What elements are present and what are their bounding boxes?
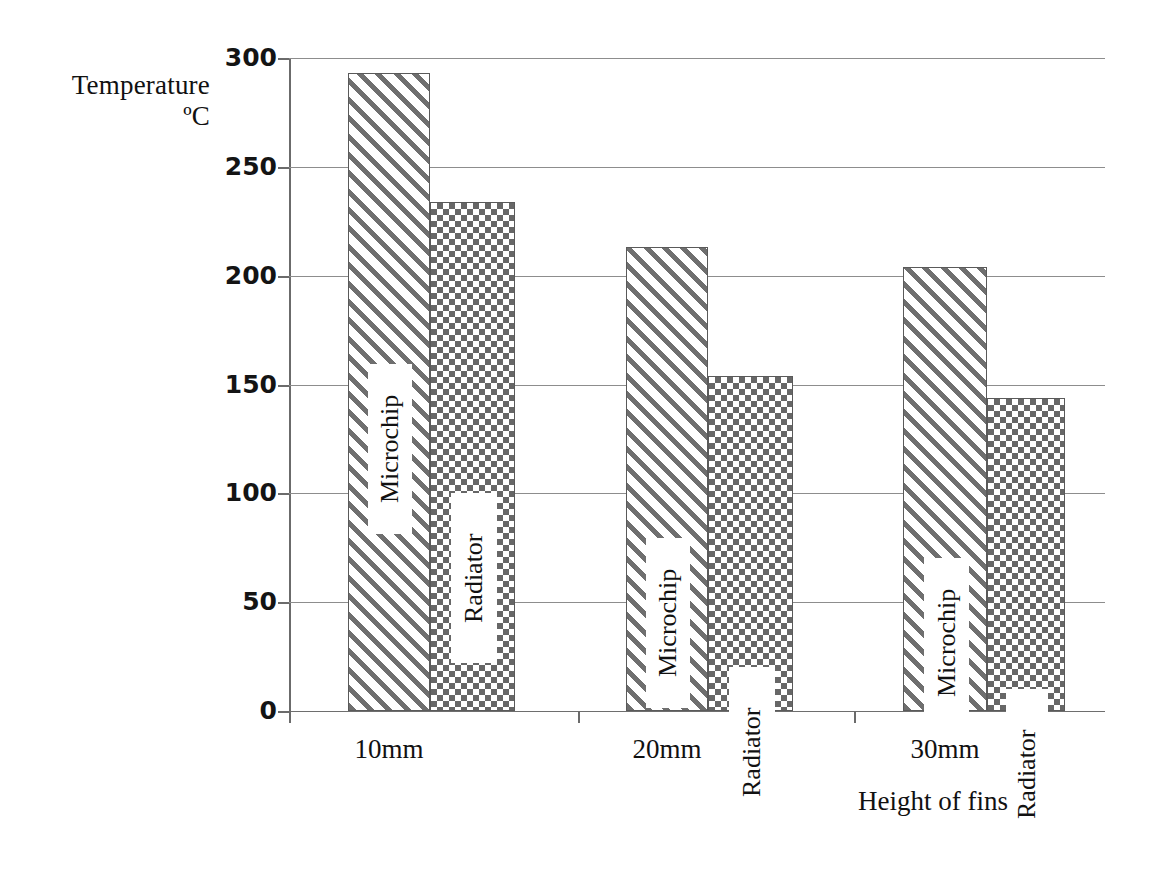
y-tick-mark: [278, 276, 289, 278]
y-tick-mark: [278, 167, 289, 169]
y-tick-label: 200: [203, 263, 277, 288]
bar-series-label: Radiator: [1006, 689, 1048, 859]
y-tick-label: 250: [203, 154, 277, 179]
y-axis-title: Temperature ºC: [40, 70, 210, 132]
y-tick-label: 150: [203, 372, 277, 397]
y-tick-label: 100: [203, 480, 277, 505]
x-tick-mark: [854, 711, 856, 723]
y-tick-mark: [278, 602, 289, 604]
x-category-label-30mm: 30mm: [845, 734, 1045, 765]
bar-radiator-20mm: Radiator: [708, 376, 793, 711]
gridline: [289, 58, 1105, 59]
y-tick-mark: [278, 385, 289, 387]
bar-chart: Temperature ºC 300250200150100500 Microc…: [0, 0, 1162, 869]
y-axis-title-line1: Temperature: [40, 70, 210, 101]
y-tick-mark: [278, 493, 289, 495]
y-tick-label: 300: [203, 45, 277, 70]
bar-series-label: Microchip: [924, 558, 969, 728]
bar-radiator-10mm: Radiator: [430, 202, 515, 711]
plot-area: 300250200150100500 MicrochipRadiatorMicr…: [289, 58, 1105, 711]
x-category-label-20mm: 20mm: [567, 734, 767, 765]
y-axis-title-line2: ºC: [40, 101, 210, 132]
bar-series-label: Radiator: [451, 493, 497, 663]
x-category-label-10mm: 10mm: [289, 734, 489, 765]
x-tick-mark: [578, 711, 580, 723]
bar-series-label: Microchip: [646, 538, 690, 708]
y-tick-label: 0: [203, 698, 277, 723]
bar-microchip-10mm: Microchip: [348, 73, 430, 711]
y-tick-label: 50: [203, 589, 277, 614]
bar-microchip-30mm: Microchip: [903, 267, 987, 711]
x-axis-title: Height of fins: [858, 786, 1008, 817]
y-tick-mark: [278, 711, 289, 713]
bar-radiator-30mm: Radiator: [987, 398, 1065, 711]
gridline: [289, 711, 1105, 712]
bar-series-label: Microchip: [368, 364, 412, 534]
y-tick-mark: [278, 58, 289, 60]
x-tick-mark: [289, 711, 291, 723]
bar-microchip-20mm: Microchip: [626, 247, 708, 711]
